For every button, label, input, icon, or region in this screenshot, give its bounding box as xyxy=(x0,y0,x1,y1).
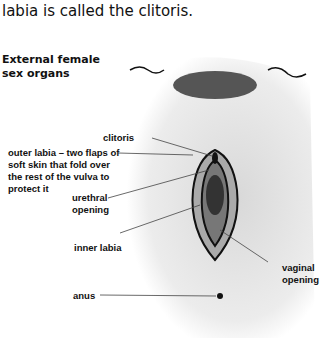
anus-mark xyxy=(217,293,223,299)
vaginal-area xyxy=(206,175,224,215)
pubic-hair xyxy=(173,71,257,99)
label-inner-labia: inner labia xyxy=(74,242,122,254)
label-vaginal-opening: vaginal opening xyxy=(282,262,321,286)
label-anus: anus xyxy=(73,290,95,302)
label-urethral-opening: urethral opening xyxy=(72,192,112,216)
caption-text: labia is called the clitoris. xyxy=(2,2,193,20)
diagram-title: External female sex organs xyxy=(2,53,112,81)
label-clitoris: clitoris xyxy=(103,132,134,144)
clitoris-shape xyxy=(212,152,218,164)
label-outer-labia: outer labia – two flaps of soft skin tha… xyxy=(8,147,120,195)
